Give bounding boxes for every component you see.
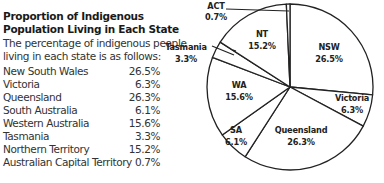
victoria-value: 6.3% bbox=[341, 105, 363, 115]
tasmania-value: 3.3% bbox=[175, 54, 197, 64]
queensland-value: 26.3% bbox=[287, 137, 314, 147]
wa-label: WA bbox=[232, 80, 247, 90]
victoria-label: Victoria bbox=[335, 93, 369, 103]
sa-label: SA bbox=[230, 125, 243, 135]
act-value: 0.7% bbox=[205, 12, 227, 22]
pie-chart: ACT 0.7% NT 15.2% NSW 26.5% Tasmania 3.3… bbox=[0, 0, 384, 183]
nsw-value: 26.5% bbox=[315, 54, 342, 64]
queensland-label: Queensland bbox=[275, 125, 328, 135]
nt-value: 15.2% bbox=[248, 41, 275, 51]
nt-label: NT bbox=[256, 29, 269, 39]
sa-value: 6.1% bbox=[225, 137, 247, 147]
nsw-label: NSW bbox=[318, 42, 339, 52]
act-label: ACT bbox=[207, 1, 225, 11]
wa-value: 15.6% bbox=[225, 92, 252, 102]
tasmania-label: Tasmania bbox=[165, 42, 207, 52]
